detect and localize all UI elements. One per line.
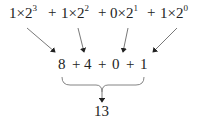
term-1: 1×23 xyxy=(9,4,37,22)
plus-b: + xyxy=(98,56,106,73)
arrow-term-3 xyxy=(123,28,128,52)
result-value: 13 xyxy=(94,103,109,120)
sum-brace xyxy=(62,77,144,92)
arrow-term-1 xyxy=(27,28,55,52)
plus-2: + xyxy=(98,4,106,21)
plus-c: + xyxy=(126,56,134,73)
term-3: 0×21 xyxy=(110,4,138,22)
value-4: 1 xyxy=(140,56,148,73)
value-3: 0 xyxy=(112,56,120,73)
arrow-term-2 xyxy=(78,28,84,52)
plus-a: + xyxy=(72,56,80,73)
term-4: 1×20 xyxy=(160,4,188,22)
arrow-term-4 xyxy=(153,28,177,52)
term-2: 1×22 xyxy=(61,4,89,22)
plus-1: + xyxy=(48,4,56,21)
plus-3: + xyxy=(147,4,155,21)
value-2: 4 xyxy=(84,56,92,73)
value-1: 8 xyxy=(58,56,66,73)
